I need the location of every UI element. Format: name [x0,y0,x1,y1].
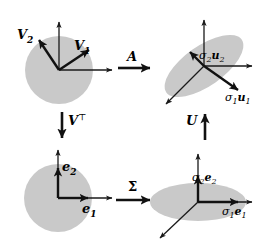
panel-bottom-right [150,154,252,238]
svd-geometry-figure: V2 V1 A V⊤ U Σ σ2u2 σ1u1 e2 e1 σ2e2 σ1e1 [0,0,272,245]
panel-top-left [25,22,112,104]
label-sigma2-u2: σ2u2 [199,50,225,64]
label-e2: e2 [62,160,77,177]
label-operator-a: A [127,50,137,63]
label-operator-u: U [186,114,197,127]
label-e1: e1 [82,202,97,219]
label-operator-v-transpose: V⊤ [68,113,87,127]
label-v2: V2 [17,28,33,45]
label-sigma2-e2: σ2e2 [192,172,217,186]
label-operator-sigma: Σ [128,180,137,193]
label-v1: V1 [74,39,90,56]
label-sigma1-u1: σ1u1 [225,92,251,106]
label-sigma1-e1: σ1e1 [222,206,247,220]
